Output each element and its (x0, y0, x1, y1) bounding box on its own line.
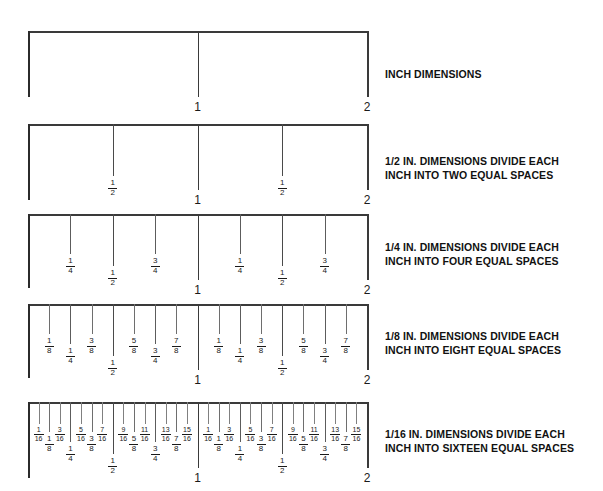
fraction-denominator: 16 (134, 435, 156, 443)
inch-label-sixteenth-2: 2 (364, 472, 371, 484)
fraction-denominator: 16 (303, 435, 325, 443)
fraction-numerator: 7 (261, 426, 283, 434)
fraction-denominator: 8 (208, 445, 230, 454)
fraction-label-sixteenth-1-over-4-3: 14 (59, 445, 81, 463)
fraction-label-sixteenth-1-over-2-7: 12 (102, 457, 124, 475)
inch-label-sixteenth-1: 1 (194, 472, 201, 484)
tick-sixteenth-9-over-16-23 (293, 402, 294, 424)
fraction-numerator: 1 (102, 457, 124, 466)
fraction-denominator: 4 (144, 455, 166, 464)
fraction-numerator: 3 (314, 445, 336, 454)
fraction-label-sixteenth-15-over-16-29: 1516 (345, 426, 367, 442)
tick-sixteenth-5-over-16-4 (81, 402, 82, 424)
fraction-denominator: 2 (102, 467, 124, 476)
fraction-denominator: 8 (250, 445, 272, 454)
fraction-numerator: 13 (155, 426, 177, 434)
fraction-numerator: 9 (112, 426, 134, 434)
fraction-denominator: 16 (345, 435, 367, 443)
fraction-numerator: 15 (345, 426, 367, 434)
fraction-numerator: 1 (59, 445, 81, 454)
fraction-label-sixteenth-3-over-16-2: 316 (49, 426, 71, 442)
fraction-numerator: 13 (324, 426, 346, 434)
tick-sixteenth-13-over-16-27 (335, 402, 336, 424)
fraction-label-sixteenth-15-over-16-14: 1516 (176, 426, 198, 442)
fraction-label-sixteenth-1-over-4-18: 14 (229, 445, 251, 463)
tick-sixteenth-15-over-16-14 (187, 402, 188, 424)
tick-sixteenth-9-over-16-8 (123, 402, 124, 424)
fraction-denominator: 8 (123, 445, 145, 454)
fraction-numerator: 3 (144, 445, 166, 454)
fraction-numerator: 1 (271, 457, 293, 466)
fraction-numerator: 11 (303, 426, 325, 434)
fraction-denominator: 16 (218, 435, 240, 443)
fraction-denominator: 16 (176, 435, 198, 443)
fraction-denominator: 2 (271, 467, 293, 476)
tick-sixteenth-15-over-16-29 (356, 402, 357, 424)
fraction-denominator: 4 (229, 455, 251, 464)
fraction-numerator: 11 (134, 426, 156, 434)
fraction-label-sixteenth-3-over-16-17: 316 (218, 426, 240, 442)
fraction-denominator: 8 (81, 445, 103, 454)
tick-sixteenth-7-over-16-6 (102, 402, 103, 424)
tick-sixteenth-3-over-16-17 (229, 402, 230, 424)
fraction-label-sixteenth-7-over-16-6: 716 (91, 426, 113, 442)
tick-sixteenth-3-over-16-2 (60, 402, 61, 424)
fraction-numerator: 7 (91, 426, 113, 434)
fraction-numerator: 15 (176, 426, 198, 434)
fraction-denominator: 8 (335, 445, 357, 454)
ruler-sixteenth: 1211618316145163871612916581116341316781… (0, 0, 603, 491)
fraction-label-sixteenth-11-over-16-25: 1116 (303, 426, 325, 442)
fraction-label-sixteenth-3-over-4-26: 34 (314, 445, 336, 463)
fraction-numerator: 1 (229, 445, 251, 454)
fraction-denominator: 4 (59, 455, 81, 464)
tick-sixteenth-11-over-16-25 (314, 402, 315, 424)
fraction-denominator: 8 (292, 445, 314, 454)
fraction-numerator: 3 (218, 426, 240, 434)
tick-sixteenth-7-over-16-21 (272, 402, 273, 424)
fraction-label-sixteenth-11-over-16-10: 1116 (134, 426, 156, 442)
tick-sixteenth-1-over-16-15 (208, 402, 209, 424)
tick-sixteenth-11-over-16-10 (145, 402, 146, 424)
fraction-denominator: 16 (261, 435, 283, 443)
fraction-denominator: 8 (38, 445, 60, 454)
fraction-numerator: 3 (49, 426, 71, 434)
fraction-denominator: 8 (165, 445, 187, 454)
fraction-numerator: 1 (197, 426, 219, 434)
fraction-denominator: 4 (314, 455, 336, 464)
fraction-numerator: 9 (282, 426, 304, 434)
ruler-graduation-diagram: 12INCH DIMENSIONS1212121/2 IN. DIMENSION… (0, 0, 603, 491)
fraction-denominator: 16 (91, 435, 113, 443)
fraction-label-sixteenth-7-over-16-21: 716 (261, 426, 283, 442)
fraction-label-sixteenth-1-over-2-22: 12 (271, 457, 293, 475)
fraction-numerator: 5 (239, 426, 261, 434)
caption-sixteenth: 1/16 IN. DIMENSIONS DIVIDE EACH INCH INT… (385, 428, 574, 455)
fraction-numerator: 1 (28, 426, 50, 434)
tick-sixteenth-5-over-16-19 (250, 402, 251, 424)
fraction-label-sixteenth-3-over-4-11: 34 (144, 445, 166, 463)
fraction-numerator: 5 (70, 426, 92, 434)
fraction-denominator: 16 (49, 435, 71, 443)
tick-sixteenth-1-over-16-0 (39, 402, 40, 424)
tick-sixteenth-13-over-16-12 (166, 402, 167, 424)
